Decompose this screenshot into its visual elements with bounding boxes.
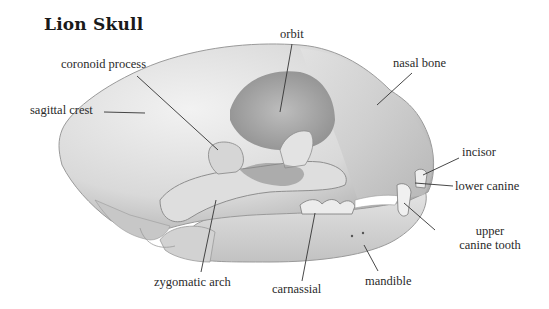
label-zygomatic-arch: zygomatic arch xyxy=(154,276,231,290)
label-orbit: orbit xyxy=(280,28,304,42)
carnassial-teeth xyxy=(300,200,355,215)
label-coronoid-process: coronoid process xyxy=(61,58,146,72)
coronoid-process-shape xyxy=(208,142,243,174)
label-nasal-bone: nasal bone xyxy=(393,57,446,71)
label-incisor: incisor xyxy=(462,146,496,160)
label-upper-canine-line2: canine tooth xyxy=(440,239,540,253)
label-sagittal-crest: sagittal crest xyxy=(30,104,93,118)
label-upper-canine: upper canine tooth xyxy=(440,225,540,253)
label-upper-canine-line1: upper xyxy=(440,225,540,239)
label-lower-canine: lower canine xyxy=(455,180,519,194)
label-mandible: mandible xyxy=(365,275,412,289)
label-carnassial: carnassial xyxy=(272,283,321,297)
incisor-tooth xyxy=(415,169,427,188)
